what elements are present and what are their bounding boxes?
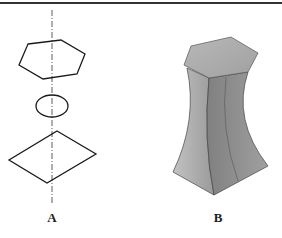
right-face	[207, 72, 268, 195]
figure-canvas	[0, 0, 282, 238]
panel-a-label: A	[47, 210, 56, 226]
panel-b-solid	[173, 37, 268, 195]
panel-a	[9, 10, 96, 205]
rhombus-shape	[9, 131, 96, 183]
panel-b-label: B	[214, 210, 223, 226]
